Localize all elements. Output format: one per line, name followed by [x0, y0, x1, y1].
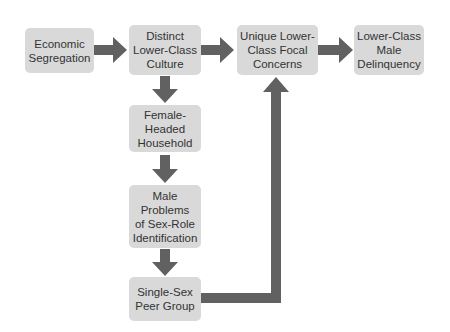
node-male-problems-of-sex-role-identification: Male Problems of Sex-Role Identification	[129, 185, 201, 248]
edge-econ-to-culture	[94, 37, 127, 63]
node-economic-segregation: Economic Segregation	[25, 28, 94, 73]
edge-culture-to-female	[152, 76, 178, 103]
node-single-sex-peer-group: Single-Sex Peer Group	[129, 277, 201, 321]
edge-female-to-male	[152, 155, 178, 183]
node-distinct-lower-class-culture: Distinct Lower-Class Culture	[129, 25, 201, 75]
edge-focal-to-delinq	[318, 37, 353, 63]
node-lower-class-male-delinquency: Lower-Class Male Delinquency	[354, 25, 424, 75]
node-female-headed-household: Female- Headed Household	[129, 105, 201, 152]
edge-peer-to-focal	[201, 77, 289, 303]
edge-culture-to-focal	[201, 37, 234, 63]
flowchart-diagram: Economic Segregation Distinct Lower-Clas…	[0, 0, 450, 332]
edge-male-to-peer	[152, 249, 178, 276]
node-unique-lower-class-focal-concerns: Unique Lower- Class Focal Concerns	[237, 25, 318, 75]
